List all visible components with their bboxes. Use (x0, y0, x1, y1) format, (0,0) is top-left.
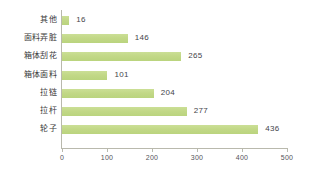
bar (62, 34, 128, 43)
x-axis-tick-label: 0 (60, 154, 64, 161)
category-label: 箱体刮花 (24, 51, 57, 61)
x-axis-tick-mark (197, 149, 198, 152)
x-axis-tick-mark (242, 149, 243, 152)
bar-row: 箱体面料101 (0, 67, 311, 85)
bar (62, 107, 187, 116)
bar-value-label: 16 (76, 14, 86, 26)
category-label: 箱体面料 (24, 70, 57, 80)
bar-value-label: 436 (265, 123, 279, 135)
bar-row: 其他16 (0, 12, 311, 30)
category-label: 拉链 (40, 88, 57, 98)
bar-row: 拉杆277 (0, 103, 311, 121)
bar-value-label: 146 (135, 32, 149, 44)
bar-row: 拉链204 (0, 85, 311, 103)
bar-value-label: 265 (188, 50, 202, 62)
x-axis-tick-label: 100 (101, 154, 113, 161)
x-axis-tick-label: 500 (281, 154, 293, 161)
x-axis-tick-mark (287, 149, 288, 152)
category-label: 其他 (40, 15, 57, 25)
bar (62, 125, 258, 134)
bar-row: 轮子436 (0, 121, 311, 139)
bar (62, 71, 107, 80)
bar-value-label: 101 (114, 69, 128, 81)
x-axis-tick-mark (62, 149, 63, 152)
x-axis-line (61, 148, 288, 149)
bar-value-label: 277 (194, 105, 208, 117)
bar (62, 89, 154, 98)
bar-row: 箱体刮花265 (0, 48, 311, 66)
category-label: 轮子 (40, 124, 57, 134)
x-axis-tick-label: 300 (191, 154, 203, 161)
bar (62, 52, 181, 61)
x-axis-tick-mark (107, 149, 108, 152)
x-axis-tick-label: 200 (146, 154, 158, 161)
category-label: 拉杆 (40, 106, 57, 116)
bar-row: 面料弄脏146 (0, 30, 311, 48)
x-axis-tick-mark (152, 149, 153, 152)
bar-value-label: 204 (161, 87, 175, 99)
category-label: 面料弄脏 (24, 33, 57, 43)
x-axis-tick-label: 400 (236, 154, 248, 161)
bar (62, 16, 69, 25)
bar-chart: 0100200300400500 其他16面料弄脏146箱体刮花265箱体面料1… (0, 0, 311, 179)
